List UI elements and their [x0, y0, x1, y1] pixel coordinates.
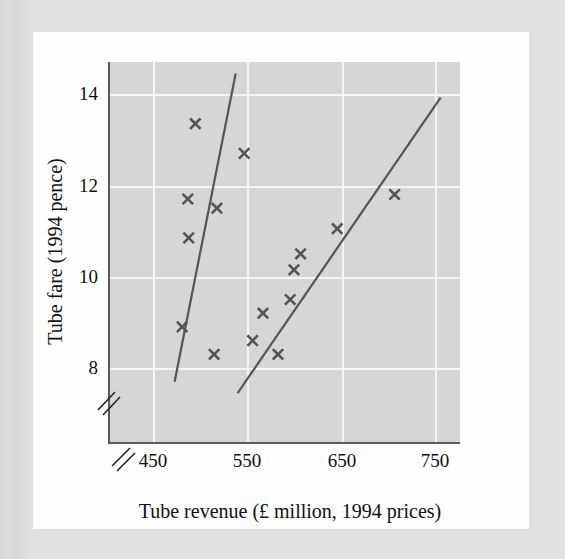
data-point-marker [258, 308, 268, 318]
data-point-marker [273, 349, 283, 359]
data-point-marker [332, 224, 342, 234]
data-point-marker [289, 265, 299, 275]
data-point-marker [295, 249, 305, 259]
axis-break-y-icon [98, 392, 120, 415]
data-point-marker [190, 119, 200, 129]
data-point-marker [285, 294, 295, 304]
axis-break-x-icon [112, 448, 135, 471]
data-point-marker [212, 203, 222, 213]
data-point-marker [389, 189, 399, 199]
data-markers-group [177, 119, 400, 360]
plot-overlay [0, 0, 565, 559]
right-fit-line [238, 98, 441, 393]
data-point-marker [183, 194, 193, 204]
data-point-marker [184, 233, 194, 243]
fit-lines-group [175, 74, 441, 394]
data-point-marker [247, 335, 257, 345]
data-point-marker [239, 148, 249, 158]
data-point-marker [209, 349, 219, 359]
left-fit-line [175, 74, 236, 382]
scatter-plot-figure: 14 12 10 8 450 550 650 750 Tube revenue … [0, 0, 565, 559]
